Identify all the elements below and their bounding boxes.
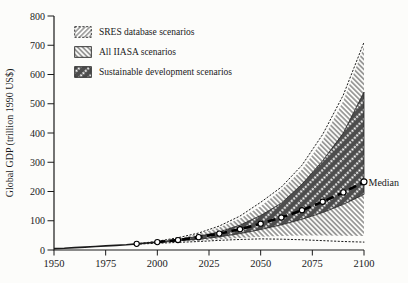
figure: Median0100200300400500600700800195019752…: [0, 0, 408, 283]
open-circle-marker: [134, 241, 139, 246]
x-axis-tick-label: 2000: [147, 258, 168, 269]
legend-swatch-rect: [75, 67, 92, 78]
y-axis-tick-label: 500: [30, 98, 45, 109]
open-circle-marker: [258, 221, 263, 226]
median-label: Median: [369, 177, 400, 188]
dark-stripes-swatch-icon: [74, 66, 92, 78]
y-axis-tick-label: 600: [30, 69, 45, 80]
sres-hatch-swatch-icon: [74, 26, 92, 38]
y-axis-tick-label: 700: [30, 40, 45, 51]
iiasa-hatch-swatch-icon: [74, 46, 92, 58]
open-circle-marker: [341, 190, 346, 195]
open-circle-marker: [217, 231, 222, 236]
open-circle-marker: [299, 208, 304, 213]
open-circle-marker: [175, 237, 180, 242]
open-circle-marker: [361, 179, 367, 185]
y-axis-tick-label: 0: [40, 245, 45, 256]
x-axis-tick-label: 2100: [354, 258, 375, 269]
legend-label: All IIASA scenarios: [99, 46, 176, 58]
open-circle-marker: [196, 235, 201, 240]
y-axis-tick-label: 800: [30, 11, 45, 22]
x-axis-tick-label: 1950: [44, 258, 65, 269]
legend-item: All IIASA scenarios: [74, 46, 232, 58]
legend-label: SRES database scenarios: [99, 26, 195, 38]
y-axis-tick-label: 400: [30, 128, 45, 139]
open-circle-marker: [237, 227, 242, 232]
x-axis-tick-label: 2025: [199, 258, 220, 269]
x-axis-tick-label: 2050: [250, 258, 271, 269]
x-axis-tick-label: 1975: [95, 258, 116, 269]
legend-item: SRES database scenarios: [74, 26, 232, 38]
legend-swatch-rect: [75, 27, 92, 38]
legend-item: Sustainable development scenarios: [74, 66, 232, 78]
x-axis-tick-label: 2075: [302, 258, 323, 269]
open-circle-marker: [320, 199, 325, 204]
y-axis-title: Global GDP (trillion 1990 US$): [4, 69, 16, 198]
open-circle-marker: [279, 215, 284, 220]
open-circle-marker: [155, 240, 160, 245]
legend-swatch-rect: [75, 47, 92, 58]
y-axis-tick-label: 300: [30, 157, 45, 168]
legend: SRES database scenariosAll IIASA scenari…: [74, 26, 232, 78]
historical-gdp-line: [54, 242, 157, 248]
legend-label: Sustainable development scenarios: [99, 66, 232, 78]
y-axis-tick-label: 200: [30, 186, 45, 197]
y-axis-tick-label: 100: [30, 215, 45, 226]
